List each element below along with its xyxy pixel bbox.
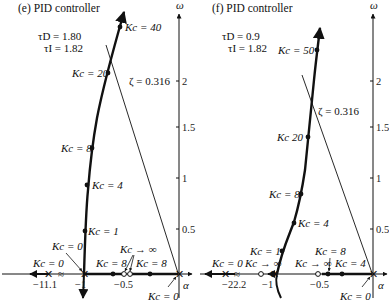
panel-e: (e) PID controller τD = 1.80 τI = 1.82 ω… — [2, 0, 195, 302]
panel-e-point-kc1 — [83, 229, 88, 234]
svg-text:Kc = 8: Kc = 8 — [268, 188, 300, 200]
svg-text:Kc = 20: Kc = 20 — [71, 67, 109, 79]
svg-text:Kc = 0: Kc = 0 — [339, 290, 371, 302]
svg-text:Kc 20: Kc 20 — [276, 131, 303, 143]
panel-e-title: (e) PID controller — [18, 2, 100, 15]
panel-f-pole-origin: ✕ — [369, 268, 378, 280]
axis-break-icon: ≈ — [58, 268, 64, 280]
panel-e-omega-label: ω — [176, 0, 184, 11]
panel-f-pole-double: ✕ — [270, 268, 279, 280]
svg-text:−0.5: −0.5 — [310, 279, 329, 290]
panel-e-pole-far: ✕ — [44, 268, 53, 280]
panel-f-point-kc20 — [306, 135, 311, 140]
panel-e-zeta-label: ζ = 0.316 — [129, 75, 171, 88]
svg-text:Kc = 1: Kc = 1 — [87, 225, 119, 237]
svg-text:Kc → ∞: Kc → ∞ — [294, 257, 332, 269]
svg-text:−11.1: −11.1 — [33, 279, 57, 290]
panel-f: (f) PID controller τD = 0.9 τI = 1.82 ω … — [200, 0, 389, 302]
svg-text:1.5: 1.5 — [182, 122, 195, 133]
svg-text:0.5: 0.5 — [182, 224, 195, 235]
svg-text:1.5: 1.5 — [376, 122, 389, 133]
svg-text:Kc = 40: Kc = 40 — [124, 21, 162, 33]
panel-f-omega-label: ω — [370, 0, 378, 11]
svg-text:Kc = 1: Kc = 1 — [249, 245, 281, 257]
svg-text:Kc = 8: Kc = 8 — [95, 257, 127, 269]
panel-e-point-kc4 — [85, 183, 90, 188]
svg-text:−1: −1 — [262, 279, 273, 290]
svg-text:1: 1 — [182, 173, 187, 184]
panel-f-zero — [259, 272, 264, 277]
svg-text:1: 1 — [376, 173, 381, 184]
svg-text:2: 2 — [376, 76, 381, 87]
panel-e-zero — [122, 272, 127, 277]
panel-e-tau-i: τI = 1.82 — [44, 42, 83, 54]
panel-f-title: (f) PID controller — [212, 2, 293, 15]
panel-f-tau-i: τI = 1.82 — [228, 42, 267, 54]
svg-text:Kc = 8: Kc = 8 — [314, 245, 346, 257]
svg-text:Kc = 50: Kc = 50 — [277, 44, 315, 56]
panel-f-point-kc4 — [292, 221, 297, 226]
panel-f-locus-branch — [277, 28, 320, 274]
panel-f-alpha-label: α — [378, 279, 384, 291]
svg-text:Kc = 0: Kc = 0 — [32, 257, 64, 269]
svg-text:Kc → ∞: Kc → ∞ — [244, 257, 282, 269]
root-locus-figure: (e) PID controller τD = 1.80 τI = 1.82 ω… — [0, 0, 389, 304]
svg-text:Kc = 4: Kc = 4 — [334, 257, 366, 269]
svg-text:Kc = 8: Kc = 8 — [135, 257, 167, 269]
panel-e-pole-origin: ✕ — [175, 268, 184, 280]
svg-text:Kc = 8: Kc = 8 — [60, 142, 92, 154]
svg-text:Kc = 0: Kc = 0 — [211, 257, 243, 269]
svg-text:−0.5: −0.5 — [114, 279, 133, 290]
svg-text:0.5: 0.5 — [376, 224, 389, 235]
svg-text:−22.2: −22.2 — [222, 279, 246, 290]
svg-text:Kc = 0: Kc = 0 — [147, 290, 179, 302]
svg-text:Kc = 4: Kc = 4 — [91, 179, 123, 191]
panel-e-point-kc40 — [118, 25, 123, 30]
panel-f-zero — [316, 272, 321, 277]
svg-text:Kc = 4: Kc = 4 — [297, 217, 329, 229]
panel-e-zero — [128, 272, 133, 277]
svg-text:Kc = 0: Kc = 0 — [51, 240, 83, 252]
panel-e-tau-d: τD = 1.80 — [38, 30, 82, 42]
panel-e-alpha-label: α — [183, 279, 189, 291]
panel-f-zeta-label: ζ = 0.316 — [318, 105, 360, 118]
panel-f-pole-far: ✕ — [221, 268, 230, 280]
svg-text:2: 2 — [182, 76, 187, 87]
svg-text:Kc → ∞: Kc → ∞ — [119, 243, 157, 255]
panel-f-tau-d: τD = 0.9 — [222, 30, 260, 42]
panel-f-point-kc50 — [315, 48, 320, 53]
